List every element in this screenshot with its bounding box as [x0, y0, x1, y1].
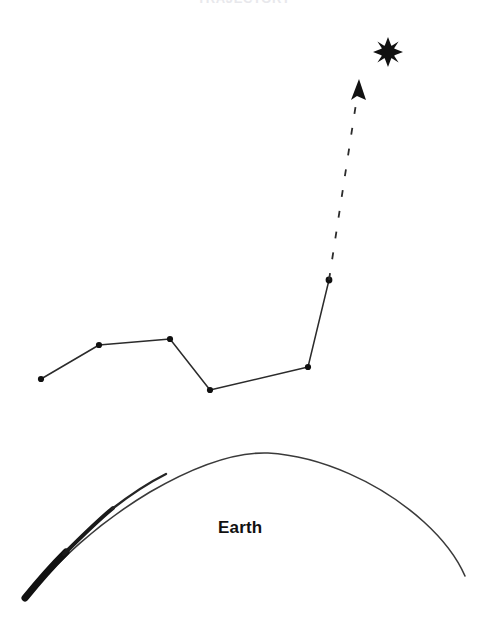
track-polyline — [41, 280, 329, 390]
projected-dashed-line — [329, 84, 359, 280]
track-node — [38, 376, 44, 382]
arrow-head-icon — [351, 79, 366, 100]
earth-label: Earth — [218, 518, 262, 538]
earth-arc-mid-stroke — [64, 508, 113, 554]
trajectory-svg — [0, 0, 488, 636]
star-icon — [373, 37, 403, 67]
diagram-canvas: TRAJECTORY — [0, 0, 488, 636]
track-node — [207, 387, 213, 393]
track-polyline-group — [38, 277, 333, 394]
track-node — [305, 364, 311, 370]
earth-arc-taper-stroke — [112, 474, 166, 509]
projected-path-group — [329, 79, 366, 280]
earth-arc-thick-stroke — [25, 552, 66, 598]
track-node — [167, 336, 173, 342]
track-node — [96, 342, 102, 348]
